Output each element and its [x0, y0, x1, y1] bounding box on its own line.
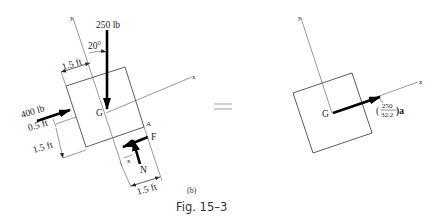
friction-label: F	[151, 132, 156, 142]
force-400lb-label: 400 lb	[20, 103, 46, 120]
dim-top-ext	[61, 72, 66, 86]
mass-numerator: 250	[382, 102, 393, 110]
figure-caption: Fig. 15–3	[176, 200, 227, 214]
dim-offset	[53, 119, 56, 127]
dim-left-height-label: 1.5 ft	[32, 139, 54, 155]
dim-left-ext2	[63, 150, 86, 158]
sub-figure-label: (b)	[187, 186, 197, 195]
y-axis-label: y	[70, 14, 74, 22]
dim-left-ext1	[56, 117, 76, 124]
dim-left-height	[56, 128, 63, 158]
dim-top-label: 1.5 ft	[61, 56, 83, 72]
normal-arrow	[133, 140, 140, 164]
angle-arc	[89, 51, 106, 53]
center-of-gravity-label-kinetic: G	[322, 109, 329, 119]
x-axis	[106, 77, 192, 113]
x-axis-label-kinetic: x	[419, 78, 423, 86]
y-axis-label-kinetic: y	[298, 14, 302, 22]
normal-label: N	[140, 165, 147, 175]
angle-label: 20°	[88, 41, 102, 51]
mass-open-paren: (	[376, 106, 379, 117]
mass-denominator: 32.2	[381, 111, 394, 119]
point-a-label: A	[146, 120, 151, 128]
equals-sign	[214, 104, 232, 109]
mass-close-accel: )a	[396, 106, 404, 117]
kinetic-diagram: y x G ( 250 32.2 )a	[293, 14, 423, 153]
dim-bottom-ext1	[120, 162, 131, 187]
figure-15-3: y x 250 lb 20° 1.5 ft 400 lb 0.5 ft 1.5 …	[0, 0, 442, 216]
inertia-vector-arrow	[333, 97, 380, 113]
dim-left-offset-label: 0.5 ft	[27, 117, 49, 133]
force-250lb-label: 250 lb	[96, 20, 120, 30]
y-axis-kinetic	[301, 18, 332, 113]
dim-x-label: x	[127, 157, 131, 165]
x-axis-label: x	[192, 73, 196, 81]
center-of-gravity-label: G	[96, 108, 103, 118]
crate-outline	[66, 67, 144, 147]
free-body-diagram: y x 250 lb 20° 1.5 ft 400 lb 0.5 ft 1.5 …	[20, 14, 196, 197]
inertia-vector-label: ( 250 32.2 )a	[376, 99, 404, 119]
